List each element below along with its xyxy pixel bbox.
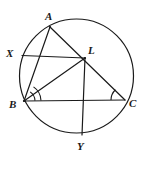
segment-layer [22,27,125,135]
segment-xl [22,56,85,59]
point-label-B: B [9,99,16,110]
segment-ac-through-l [50,27,125,100]
angle-mark-layer [30,87,115,101]
point-label-Y: Y [77,141,84,152]
segment-bc [24,100,125,101]
vertex-dot-B [23,100,25,102]
vertex-dot-L [84,57,86,59]
geometry-canvas [0,0,147,171]
point-label-A: A [45,11,52,22]
angle-arc-c [111,90,115,100]
circle-layer [20,19,134,133]
point-label-X: X [6,48,13,59]
point-label-L: L [88,45,95,56]
point-label-C: C [129,98,136,109]
geometry-figure: A X L B C Y [0,0,147,171]
vertex-dot-A [49,26,51,28]
circumscribed-circle [20,19,134,133]
segment-ly [82,58,85,135]
